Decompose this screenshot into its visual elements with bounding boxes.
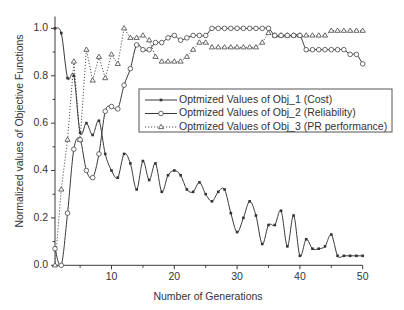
chart: 10203040500.00.20.40.60.81.0 Number of G…: [0, 0, 404, 310]
obj2-point: [279, 33, 284, 38]
obj2-point: [272, 33, 277, 38]
obj1-point: [230, 212, 233, 215]
obj1-point: [129, 162, 132, 165]
obj3-point: [329, 28, 334, 32]
obj3-point: [184, 54, 189, 58]
obj1-point: [198, 181, 201, 184]
obj2-point: [97, 152, 102, 157]
series-obj3: [52, 26, 365, 267]
obj2-point: [254, 26, 259, 31]
obj1-point: [299, 255, 302, 258]
obj3-point: [253, 45, 258, 49]
obj3-point: [165, 59, 170, 63]
obj2-point: [304, 47, 309, 52]
obj2-point: [260, 26, 265, 31]
obj1-point: [305, 238, 308, 241]
obj2-point: [298, 33, 303, 38]
obj2-point: [329, 47, 334, 52]
obj2-point: [360, 62, 365, 67]
obj1-point: [355, 255, 358, 258]
obj2-point: [216, 26, 221, 31]
obj2-point: [172, 33, 177, 38]
obj2-point: [141, 47, 146, 52]
obj3-point: [341, 28, 346, 32]
obj1-point: [286, 245, 289, 248]
obj1-point: [317, 247, 320, 250]
obj2-point: [103, 109, 108, 114]
obj2-point: [229, 26, 234, 31]
obj2-point: [65, 211, 70, 216]
obj1-point: [135, 188, 138, 191]
obj2-point: [178, 38, 183, 43]
obj1-point: [336, 255, 339, 258]
obj1-point: [104, 153, 107, 156]
obj3-point: [304, 33, 309, 37]
obj3-point: [310, 33, 315, 37]
obj1-point: [123, 153, 126, 156]
obj2-point: [78, 137, 83, 142]
obj1-point: [60, 32, 63, 35]
obj3-point: [222, 45, 227, 49]
obj1-point: [280, 210, 283, 213]
obj2-point: [185, 36, 190, 41]
y-tick-label: 0.8: [33, 69, 48, 81]
obj1-point: [330, 233, 333, 236]
obj2-point: [291, 33, 296, 38]
obj2-point: [342, 47, 347, 52]
obj1-point: [85, 122, 88, 125]
obj1-point: [267, 224, 270, 227]
obj3-point: [153, 54, 158, 58]
obj3-point: [65, 137, 70, 141]
obj1-point: [148, 179, 151, 182]
obj1-point: [79, 131, 82, 134]
obj3-point: [128, 35, 133, 39]
obj1-point: [211, 200, 214, 203]
obj2-point: [247, 26, 252, 31]
obj1-point: [361, 255, 364, 258]
obj2-point: [210, 26, 215, 31]
obj1-point: [217, 191, 220, 194]
obj1-point: [186, 188, 189, 191]
obj3-point: [203, 40, 208, 44]
obj3-point: [197, 40, 202, 44]
obj3-point: [96, 54, 101, 58]
obj1-point: [167, 174, 170, 177]
obj3-point: [59, 187, 64, 191]
obj3-point: [159, 59, 164, 63]
ticks: 10203040500.00.20.40.60.81.0: [33, 21, 368, 282]
obj3-point: [228, 45, 233, 49]
obj3-point: [335, 28, 340, 32]
obj3-line: [55, 28, 363, 265]
obj2-point: [235, 26, 240, 31]
obj2-point: [122, 83, 127, 88]
obj3-point: [216, 45, 221, 49]
obj3-point: [172, 59, 177, 63]
obj3-point: [52, 263, 57, 267]
obj2-point: [203, 33, 208, 38]
series-obj2: [53, 26, 365, 268]
obj3-point: [140, 33, 145, 37]
obj1-point: [242, 217, 245, 220]
obj3-point: [235, 45, 240, 49]
obj2-point: [109, 104, 114, 109]
obj3-point: [90, 78, 95, 82]
obj3-point: [178, 59, 183, 63]
obj1-point: [154, 162, 157, 165]
obj1-point: [349, 255, 352, 258]
obj2-point: [72, 147, 77, 152]
obj1-point: [91, 134, 94, 137]
obj1-point: [98, 119, 101, 122]
obj2-point: [335, 47, 340, 52]
obj1-point: [142, 160, 145, 163]
obj1-point: [116, 176, 119, 179]
y-axis-label: Normalized values of Objective Functions: [13, 34, 25, 227]
x-tick-label: 30: [231, 270, 243, 282]
obj2-point: [222, 26, 227, 31]
obj1-point: [179, 174, 182, 177]
obj2-point: [134, 43, 139, 48]
obj3-point: [360, 28, 365, 32]
obj2-point: [153, 40, 158, 45]
obj1-point: [248, 200, 251, 203]
obj3-point: [209, 45, 214, 49]
obj1-point: [204, 193, 207, 196]
